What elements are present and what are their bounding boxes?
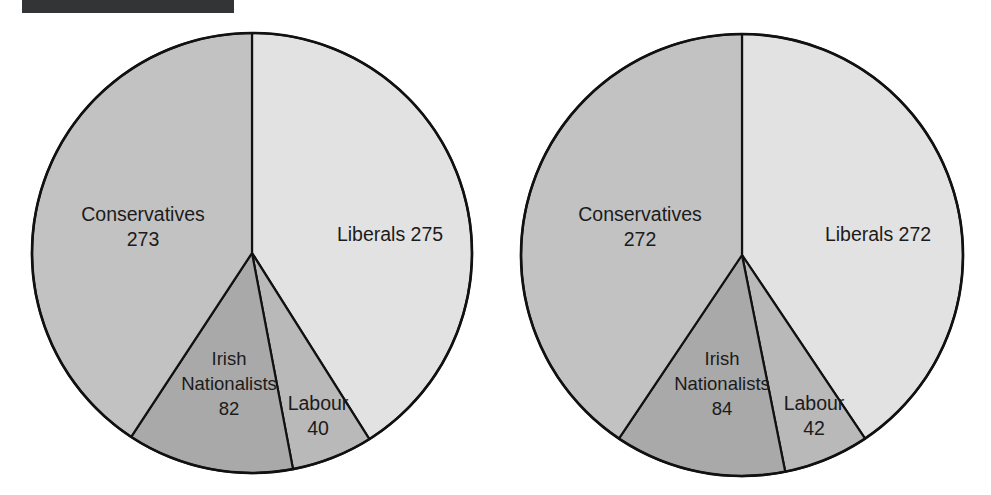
pie-chart-left — [32, 33, 472, 473]
figure-root: Liberals 275Conservatives273IrishNationa… — [0, 0, 991, 495]
pie-charts-canvas: Liberals 275Conservatives273IrishNationa… — [0, 0, 991, 495]
pie-label-liberals: Liberals 275 — [337, 223, 443, 245]
pie-chart-right — [521, 34, 963, 476]
pie-label-liberals: Liberals 272 — [825, 223, 931, 245]
